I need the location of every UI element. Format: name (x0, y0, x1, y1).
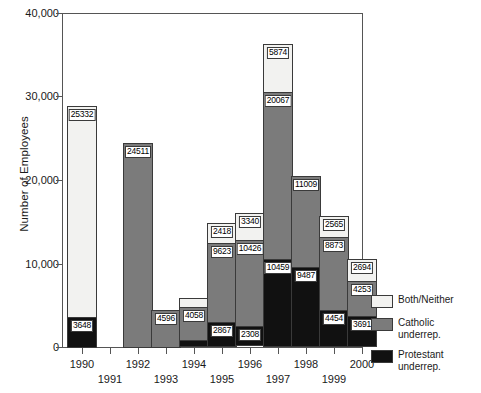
stacked-bar-chart: Number of Employees 40,000 30,000 20,000… (0, 0, 481, 393)
bar-label-1996-both: 3340 (239, 216, 261, 228)
bar-segment-both-1999: 2565 (319, 216, 349, 238)
x-tick-label-1996: 1996 (227, 358, 273, 370)
x-tick-mark-1997 (278, 348, 279, 354)
x-tick-mark-1998 (306, 348, 307, 354)
x-tick-mark-1992 (138, 348, 139, 354)
x-tick-label-1994: 1994 (171, 358, 217, 370)
bar-label-1998-prot: 9487 (295, 270, 317, 282)
bar-label-1994-cath: 4058 (183, 310, 205, 322)
y-tick-label-0: 0 (0, 342, 59, 353)
bar-segment-both-1990: 25332 (67, 106, 97, 318)
legend: Both/Neither Catholic underrep. Protesta… (371, 294, 479, 381)
x-tick-mark-1999 (334, 348, 335, 354)
bar-segment-catholic-1993: 4596 (151, 310, 181, 348)
x-tick-label-1999: 1999 (311, 373, 357, 385)
x-tick-label-1990: 1990 (59, 358, 105, 370)
bar-segment-catholic-1999: 8873 (319, 237, 349, 311)
x-tick-label-1991: 1991 (87, 373, 133, 385)
bar-1992[interactable]: 24511 (123, 143, 153, 348)
bar-label-2000-prot: 3691 (351, 319, 373, 331)
bar-segment-both-1995: 2418 (207, 223, 237, 244)
bar-segment-catholic-1997: 20067 (263, 92, 293, 260)
bar-label-1997-prot: 10459 (265, 262, 292, 274)
x-tick-mark-1994 (194, 348, 195, 354)
bar-label-1995-prot: 2867 (211, 325, 233, 337)
bar-segment-catholic-1998: 11009 (291, 176, 321, 268)
legend-item-both-neither[interactable]: Both/Neither (371, 294, 479, 308)
bar-label-1995-both: 2418 (211, 226, 233, 238)
bar-label-1999-both: 2565 (323, 219, 345, 231)
bar-1995[interactable]: 2418 9623 2867 (207, 223, 237, 348)
bar-segment-protestant-1995: 2867 (207, 322, 237, 347)
bar-segment-protestant-1998: 9487 (291, 267, 321, 347)
bar-segment-catholic-1994: 4058 (179, 307, 209, 341)
plot-area: 25332 3648 24511 4596 4058 (63, 14, 362, 348)
bar-label-1990-prot: 3648 (71, 320, 93, 332)
legend-label-protestant-line1: Protestant (398, 349, 444, 360)
bar-1997[interactable]: 5874 20067 10459 (263, 44, 293, 348)
x-tick-mark-1996 (250, 348, 251, 354)
bar-segment-protestant-1997: 10459 (263, 259, 293, 347)
bar-1994[interactable]: 4058 (179, 298, 209, 348)
bar-1996[interactable]: 3340 10426 2308 (235, 213, 265, 348)
bar-segment-catholic-1996: 10426 (235, 240, 265, 327)
y-tick-label-40000: 40,000 (0, 8, 59, 19)
legend-label-catholic-underrep: Catholic underrep. (398, 317, 479, 340)
legend-swatch-both-neither-icon (371, 295, 393, 308)
bar-label-1999-cath: 8873 (323, 240, 345, 252)
bar-segment-protestant-1999: 4454 (319, 310, 349, 347)
legend-swatch-catholic-icon (371, 318, 393, 331)
bar-segment-catholic-1995: 9623 (207, 243, 237, 323)
bar-segment-protestant-1996: 2308 (235, 326, 265, 346)
bar-label-2000-both: 2694 (351, 262, 373, 274)
legend-label-protestant-line2: underrep. (398, 361, 441, 372)
y-tick-label-20000: 20,000 (0, 175, 59, 186)
bar-1998[interactable]: 11009 9487 (291, 176, 321, 348)
bar-segment-protestant-1990: 3648 (67, 317, 97, 348)
x-tick-label-1997: 1997 (255, 373, 301, 385)
bar-label-1997-both: 5874 (267, 47, 289, 59)
x-tick-mark-1993 (166, 348, 167, 354)
legend-item-protestant-underrep[interactable]: Protestantunderrep. (371, 349, 479, 372)
bar-label-1990-both: 25332 (69, 109, 96, 121)
bar-label-1995-cath: 9623 (211, 246, 233, 258)
bar-label-1996-prot: 2308 (239, 329, 261, 341)
x-tick-mark-1995 (222, 348, 223, 354)
legend-label-protestant-underrep: Protestantunderrep. (398, 349, 444, 372)
x-tick-label-1998: 1998 (283, 358, 329, 370)
bar-label-1992-cath: 24511 (125, 146, 151, 158)
bar-segment-both-1997: 5874 (263, 44, 293, 93)
bar-segment-catholic-1992: 24511 (123, 143, 153, 348)
y-tick-label-10000: 10,000 (0, 259, 59, 270)
bar-1990[interactable]: 25332 3648 (67, 106, 97, 348)
x-tick-label-1992: 1992 (115, 358, 161, 370)
bar-label-1993-cath: 4596 (155, 313, 177, 325)
bar-1999[interactable]: 2565 8873 4454 (319, 216, 349, 348)
y-tick-label-30000: 30,000 (0, 91, 59, 102)
legend-label-both-neither: Both/Neither (398, 294, 454, 306)
bar-segment-both-2000: 2694 (347, 259, 377, 282)
bar-label-1996-cath: 10426 (237, 243, 264, 255)
x-tick-label-1995: 1995 (199, 373, 245, 385)
legend-item-catholic-underrep[interactable]: Catholic underrep. (371, 317, 479, 340)
x-tick-mark-2000 (362, 348, 363, 354)
x-tick-mark-1991 (110, 348, 111, 354)
legend-swatch-protestant-icon (371, 350, 393, 363)
bar-label-1997-cath: 20067 (265, 95, 292, 107)
bar-segment-protestant-1994 (179, 340, 209, 347)
x-tick-mark-1990 (82, 348, 83, 354)
bar-segment-both-1996: 3340 (235, 213, 265, 241)
bar-1993[interactable]: 4596 (151, 310, 181, 348)
x-tick-label-1993: 1993 (143, 373, 189, 385)
bar-label-1998-cath: 11009 (293, 179, 319, 191)
bar-label-1999-prot: 4454 (323, 313, 345, 325)
bar-label-2000-cath: 4253 (351, 284, 373, 296)
